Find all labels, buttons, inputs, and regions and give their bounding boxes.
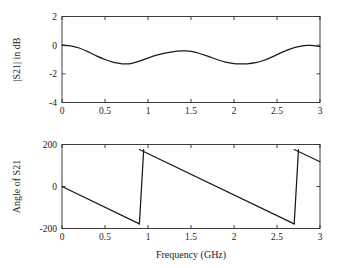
magnitude-x-tick-label: 0	[60, 106, 65, 116]
phase-x-tick-label: 0	[60, 232, 65, 242]
magnitude-y-axis-label: |S21| in dB	[11, 37, 22, 81]
magnitude-x-tick-label: 2	[232, 106, 237, 116]
magnitude-axis-ticks	[62, 17, 320, 103]
figure-s21-response: 00.511.522.5320-2-4 |S21| in dB 00.511.5…	[0, 0, 338, 268]
magnitude-y-tick-label: 2	[52, 12, 57, 22]
phase-wrap-jump-1	[139, 150, 143, 224]
phase-curve-segment-1	[62, 187, 139, 224]
phase-x-tick-label: 1	[146, 232, 151, 242]
magnitude-plot-svg: 00.511.522.5320-2-4 |S21| in dB	[0, 0, 338, 130]
magnitude-plot-frame	[62, 17, 320, 103]
magnitude-y-tick-label: -2	[49, 69, 57, 79]
phase-y-tick-label: -200	[40, 224, 58, 234]
magnitude-panel: 00.511.522.5320-2-4 |S21| in dB	[0, 0, 338, 130]
phase-axis-ticks	[62, 145, 320, 229]
phase-y-tick-label: 0	[52, 182, 57, 192]
phase-x-tick-label: 3	[318, 232, 323, 242]
phase-curve-segment-2	[139, 150, 294, 224]
phase-plot-svg: 00.511.522.532000-200 Angle of S21 Frequ…	[0, 130, 338, 268]
magnitude-tick-labels: 00.511.522.5320-2-4	[49, 12, 323, 116]
phase-panel: 00.511.522.532000-200 Angle of S21 Frequ…	[0, 130, 338, 268]
frequency-x-axis-label: Frequency (GHz)	[156, 249, 226, 261]
phase-x-tick-label: 0.5	[99, 232, 111, 242]
magnitude-y-tick-label: -4	[49, 98, 57, 108]
phase-tick-labels: 00.511.522.532000-200	[40, 140, 323, 242]
magnitude-x-tick-label: 1	[146, 106, 151, 116]
phase-plot-frame	[62, 145, 320, 229]
magnitude-x-tick-label: 2.5	[271, 106, 283, 116]
phase-curve-group	[62, 150, 320, 224]
magnitude-y-tick-label: 0	[52, 41, 57, 51]
phase-wrap-jump-2	[294, 150, 298, 224]
phase-x-tick-label: 2	[232, 232, 237, 242]
phase-x-tick-label: 1.5	[185, 232, 197, 242]
magnitude-x-tick-label: 1.5	[185, 106, 197, 116]
magnitude-x-tick-label: 3	[318, 106, 323, 116]
phase-x-tick-label: 2.5	[271, 232, 283, 242]
phase-y-tick-label: 200	[43, 140, 58, 150]
magnitude-x-tick-label: 0.5	[99, 106, 111, 116]
phase-y-axis-label: Angle of S21	[11, 160, 22, 213]
magnitude-curve	[62, 45, 320, 64]
